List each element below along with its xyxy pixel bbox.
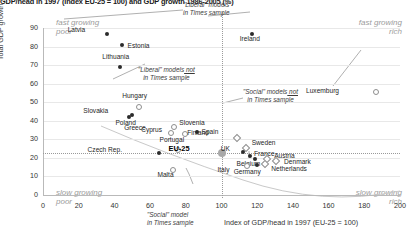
y-axis-tick: 90 <box>30 24 38 32</box>
data-point-label: Finland <box>187 129 209 136</box>
x-axis-tick: 160 <box>323 202 335 210</box>
data-point-label: Estonia <box>128 42 150 49</box>
x-axis-tick: 200 <box>394 202 406 210</box>
annotation-emphasis: not <box>184 66 195 73</box>
y-axis-label: Total GDP growth 1986 - 2005 in % <box>0 0 5 60</box>
y-axis-tick: 50 <box>30 98 38 106</box>
x-axis-label: Index of GDP/head in 1997 (EU-25 = 100) <box>224 218 358 227</box>
data-point-label: Luxemburg <box>306 87 339 94</box>
annotation-line-1: "Social" models not <box>243 88 298 96</box>
quadrant-label-bottom-left-2: poor <box>56 197 72 206</box>
annotation-liberal_not: "Liberal" models notin Times sample <box>138 66 195 81</box>
data-point-label: Ireland <box>240 35 260 42</box>
annotation-social_in: "Social" modelin Times sample <box>147 211 193 226</box>
x-axis-tick: 60 <box>146 202 154 210</box>
x-axis-tick: 80 <box>182 202 190 210</box>
data-point-label: Sweden <box>252 139 276 146</box>
y-axis-tick: 80 <box>30 43 38 51</box>
data-point-label: Slovakia <box>83 107 108 114</box>
x-axis-tick: 100 <box>216 202 228 210</box>
annotation-line-1: "Social" model <box>147 211 193 219</box>
x-axis-tick: 140 <box>287 202 299 210</box>
x-axis-tick: 120 <box>251 202 263 210</box>
y-axis-tick: 70 <box>30 61 38 69</box>
x-axis-tick: 40 <box>110 202 118 210</box>
data-point-label: Netherlands <box>271 165 307 172</box>
data-point[interactable] <box>118 65 122 69</box>
annotation-line-2: in Times sample <box>243 96 298 104</box>
chart-container: GDP/head in 1997 (index EU-25 = 100) and… <box>0 0 408 231</box>
y-axis-tick: 30 <box>30 135 38 143</box>
quadrant-label-top-right-1: fast growing <box>359 18 402 27</box>
y-axis-line <box>43 28 44 196</box>
data-point-label: Portugal <box>160 136 185 143</box>
y-axis-tick: 60 <box>30 80 38 88</box>
data-point-label: Hungary <box>122 92 147 99</box>
data-point-label: Slovenia <box>179 119 204 126</box>
y-axis-tick: 40 <box>30 117 38 125</box>
data-point-label: Czech Rep. <box>88 146 122 153</box>
data-point-label: UK <box>221 145 230 152</box>
data-point-label: Cyprus <box>141 126 162 133</box>
data-point[interactable] <box>120 43 124 47</box>
data-point[interactable] <box>105 32 109 36</box>
data-point[interactable] <box>136 104 142 110</box>
data-point-label: Latvia <box>68 26 86 33</box>
y-axis-tick: 20 <box>30 154 38 162</box>
x-axis-tick: 0 <box>41 202 45 210</box>
data-point[interactable] <box>168 130 174 136</box>
annotation-line-1: "Liberal" models <box>183 1 229 9</box>
x-axis-tick: 180 <box>358 202 370 210</box>
y-axis-tick: 0 <box>34 191 38 199</box>
data-point-label: Lithuania <box>102 53 129 60</box>
annotation-social_not: "Social" models notin Times sample <box>243 88 298 103</box>
annotation-emphasis: not <box>287 88 298 95</box>
plot-area: 0102030405060708090020406080100120140160… <box>43 28 400 195</box>
data-point-label: Italy <box>217 166 229 173</box>
annotation-liberal_in: "Liberal" modelsin Times sample <box>183 1 229 16</box>
y-axis-tick: 10 <box>30 172 38 180</box>
x-axis-tick: 20 <box>75 202 83 210</box>
annotation-line-2: in Times sample <box>147 219 193 227</box>
annotation-line-2: in Times sample <box>183 9 229 17</box>
annotation-line-2: in Times sample <box>138 74 195 82</box>
data-point-label: EU-25 <box>169 145 190 152</box>
annotation-line-1: "Liberal" models not <box>138 66 195 74</box>
data-point-label: Malta <box>157 171 173 178</box>
